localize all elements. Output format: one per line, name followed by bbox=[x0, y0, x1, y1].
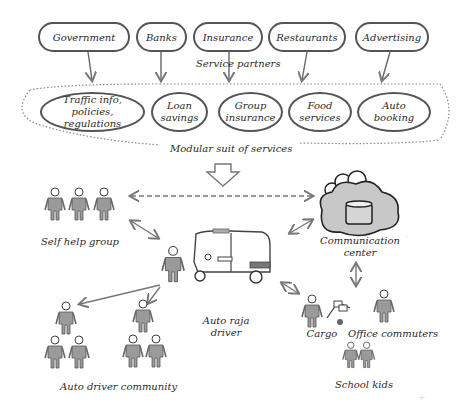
communication-center-label: Communication center bbox=[320, 235, 400, 259]
cargo-person-icon bbox=[302, 295, 322, 327]
comm-line2: center bbox=[320, 247, 400, 259]
driver-line2: driver bbox=[196, 327, 256, 339]
office-commuter-icon bbox=[374, 290, 394, 322]
office-commuters-label: Office commuters bbox=[348, 328, 438, 340]
auto-driver-community-label: Auto driver community bbox=[60, 381, 170, 393]
auto-raja-driver-figure-icon bbox=[162, 247, 184, 282]
cargo-label: Cargo bbox=[305, 328, 339, 340]
auto-driver-community-figures-icon bbox=[45, 300, 166, 368]
driver-line1: Auto raja bbox=[196, 315, 256, 327]
self-help-group-label: Self help group bbox=[40, 236, 120, 248]
self-help-group-figures-icon bbox=[45, 188, 114, 220]
school-kids-icon bbox=[343, 342, 375, 368]
comm-line1: Communication bbox=[320, 235, 400, 247]
auto-raja-driver-label: Auto raja driver bbox=[196, 315, 256, 339]
school-kids-label: School kids bbox=[334, 379, 394, 391]
people-figures-layer bbox=[0, 0, 457, 412]
